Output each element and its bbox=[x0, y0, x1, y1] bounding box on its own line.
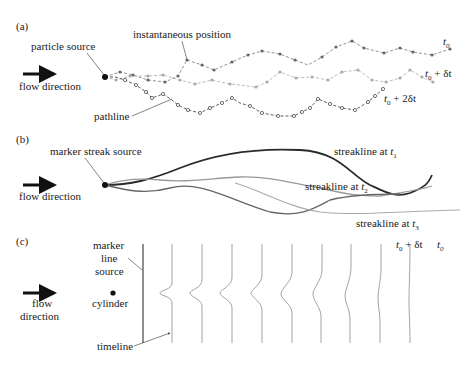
direction-label: direction bbox=[20, 310, 60, 322]
marker-line-leader bbox=[128, 258, 142, 270]
pathline-curve bbox=[105, 77, 383, 116]
flow-label: flow bbox=[32, 297, 52, 309]
panel-c: (c) marker line source flow direction cy… bbox=[16, 235, 444, 352]
streakline-t2-label: streakline at t2 bbox=[305, 180, 368, 195]
particle-source-label: particle source bbox=[31, 40, 96, 52]
panel-b-label: (b) bbox=[16, 133, 29, 146]
flow-direction-label: flow direction bbox=[19, 190, 82, 202]
line-label: line bbox=[101, 252, 118, 264]
particle-source-leader bbox=[87, 53, 104, 75]
pathline-label: pathline bbox=[94, 110, 130, 122]
timelines bbox=[160, 244, 410, 343]
streakline-t1-label: streakline at t1 bbox=[334, 145, 397, 160]
streak-t0-dt-curve bbox=[105, 70, 433, 87]
t0-dt-label: t0 + δt bbox=[425, 67, 452, 82]
t0-dt-particles bbox=[114, 68, 434, 88]
instantaneous-position-label: instantaneous position bbox=[133, 28, 232, 40]
streak-t0-curve bbox=[105, 41, 450, 82]
cylinder-label: cylinder bbox=[92, 297, 128, 309]
instantaneous-position-leader bbox=[182, 41, 187, 60]
panel-b: (b) marker streak source flow direction … bbox=[16, 133, 460, 232]
marker-label: marker bbox=[93, 239, 124, 251]
t0-label: t0 bbox=[443, 35, 450, 50]
pathline-leader bbox=[132, 99, 172, 116]
flow-visualization-diagram: (a) particle source instantaneous positi… bbox=[0, 0, 475, 367]
timeline-leader bbox=[134, 333, 170, 346]
particle-source-dot bbox=[102, 74, 108, 80]
timeline-label: timeline bbox=[97, 340, 133, 352]
t0-2dt-label: t0 + 2δt bbox=[384, 92, 416, 107]
marker-streak-source-dot bbox=[102, 182, 108, 188]
t0-label: t0 bbox=[437, 238, 444, 253]
streakline-t3-label: streakline at t3 bbox=[356, 217, 419, 232]
panel-a: (a) particle source instantaneous positi… bbox=[16, 20, 452, 122]
pathline-particles bbox=[123, 78, 384, 117]
cylinder-dot bbox=[110, 290, 115, 295]
streakline-t2 bbox=[105, 177, 432, 196]
marker-streak-source-label: marker streak source bbox=[50, 145, 142, 157]
source-label: source bbox=[95, 265, 124, 277]
panel-a-label: (a) bbox=[16, 20, 29, 33]
t0-dt-label: t0 + δt bbox=[396, 238, 423, 253]
flow-direction-label: flow direction bbox=[19, 80, 82, 92]
marker-streak-leader bbox=[85, 158, 104, 183]
panel-c-label: (c) bbox=[16, 235, 29, 248]
